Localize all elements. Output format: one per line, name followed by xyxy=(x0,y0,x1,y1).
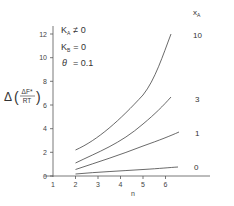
svg-text:Δ: Δ xyxy=(4,90,12,104)
svg-text:10: 10 xyxy=(39,54,47,61)
svg-text:6: 6 xyxy=(43,102,47,109)
svg-text:12: 12 xyxy=(39,31,47,38)
x-axis-label: n xyxy=(131,190,135,197)
series-labels: 10 3 1 0 xyxy=(193,31,202,172)
svg-text:0: 0 xyxy=(43,173,47,180)
svg-text:RT: RT xyxy=(23,97,32,104)
y-axis-label: Δ ( ΔF* RT ) xyxy=(4,88,41,105)
svg-text:10: 10 xyxy=(193,31,202,40)
svg-text:KA≠ 0: KA≠ 0 xyxy=(61,25,86,36)
curve-xa-10 xyxy=(76,34,172,150)
parameter-annotations: KA≠ 0 KB= 0 θ= 0.1 xyxy=(61,25,93,68)
svg-text:0: 0 xyxy=(194,163,199,172)
svg-text:(: ( xyxy=(14,89,19,105)
svg-text:θ= 0.1: θ= 0.1 xyxy=(62,58,93,68)
svg-text:): ) xyxy=(36,89,41,105)
legend-title: xA xyxy=(193,8,201,18)
svg-text:6: 6 xyxy=(164,181,168,188)
svg-text:1: 1 xyxy=(195,129,200,138)
curve-xa-0 xyxy=(76,167,179,174)
y-ticks xyxy=(50,34,53,176)
y-tick-labels: 0 2 4 6 8 10 12 xyxy=(39,31,47,180)
svg-text:4: 4 xyxy=(119,181,123,188)
x-tick-labels: 1 2 3 4 5 6 xyxy=(51,181,168,188)
svg-text:KB= 0: KB= 0 xyxy=(61,42,86,53)
svg-text:2: 2 xyxy=(43,149,47,156)
svg-text:8: 8 xyxy=(43,78,47,85)
svg-text:4: 4 xyxy=(43,125,47,132)
chart: 0 2 4 6 8 10 12 1 2 3 4 5 6 n Δ ( ΔF* RT… xyxy=(0,0,234,206)
svg-text:3: 3 xyxy=(96,181,100,188)
curve-xa-1 xyxy=(76,132,180,170)
svg-text:1: 1 xyxy=(51,181,55,188)
svg-text:2: 2 xyxy=(74,181,78,188)
svg-text:5: 5 xyxy=(141,181,145,188)
svg-text:3: 3 xyxy=(195,95,200,104)
svg-text:ΔF*: ΔF* xyxy=(22,88,33,95)
x-ticks xyxy=(76,176,166,179)
